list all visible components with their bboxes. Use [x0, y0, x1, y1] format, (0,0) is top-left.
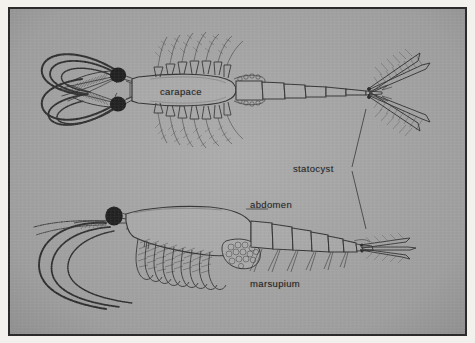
- label-carapace: carapace: [160, 86, 202, 97]
- anatomy-illustration: [10, 9, 465, 334]
- label-statocyst: statocyst: [293, 163, 334, 174]
- label-marsupium: marsupium: [250, 278, 300, 289]
- figure-root: carapace statocyst abdomen marsupium: [0, 0, 475, 343]
- label-abdomen: abdomen: [250, 199, 292, 210]
- plate-shading: [10, 9, 465, 334]
- illustration-plate: carapace statocyst abdomen marsupium: [8, 7, 467, 336]
